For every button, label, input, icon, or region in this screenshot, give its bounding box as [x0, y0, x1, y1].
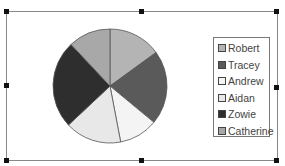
- legend-swatch-icon: [218, 110, 226, 118]
- legend-swatch-icon: [218, 127, 226, 135]
- resize-handle-tl[interactable]: [4, 9, 9, 14]
- chart-legend[interactable]: Robert Tracey Andrew Aidan Zowie Catheri…: [213, 37, 270, 137]
- resize-handle-tr[interactable]: [274, 9, 279, 14]
- resize-handle-bc[interactable]: [139, 158, 144, 163]
- legend-item: Tracey: [218, 57, 269, 74]
- resize-handle-ml[interactable]: [4, 83, 9, 88]
- legend-item: Zowie: [218, 106, 269, 123]
- resize-handle-tc[interactable]: [139, 9, 144, 14]
- legend-item: Aidan: [218, 90, 269, 107]
- legend-swatch-icon: [218, 94, 226, 102]
- legend-item: Robert: [218, 40, 269, 57]
- legend-item: Andrew: [218, 73, 269, 90]
- resize-handle-bl[interactable]: [4, 158, 9, 163]
- legend-swatch-icon: [218, 61, 226, 69]
- resize-handle-br[interactable]: [274, 158, 279, 163]
- legend-swatch-icon: [218, 77, 226, 85]
- pie-chart[interactable]: [51, 27, 169, 145]
- legend-item: Catherine: [218, 123, 269, 140]
- resize-handle-mr[interactable]: [274, 85, 279, 90]
- legend-swatch-icon: [218, 44, 226, 52]
